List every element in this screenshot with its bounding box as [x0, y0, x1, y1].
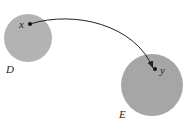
point-x-label: x: [18, 18, 24, 30]
mapping-diagram: x y D E: [0, 0, 187, 124]
point-x: [28, 22, 32, 26]
point-y: [153, 67, 157, 71]
set-e-circle: [121, 54, 183, 116]
set-d-label: D: [5, 63, 14, 75]
point-y-label: y: [159, 64, 165, 76]
set-e-label: E: [118, 108, 126, 120]
set-d-circle: [4, 14, 52, 62]
